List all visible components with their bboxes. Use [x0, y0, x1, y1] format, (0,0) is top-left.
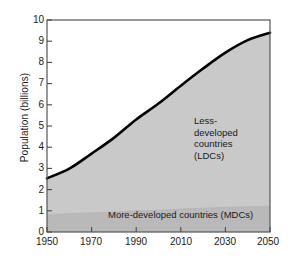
- ldc-annotation-line-4: (LDCs): [194, 150, 264, 162]
- mdc-annotation: More-developed countries (MDCs): [108, 209, 268, 221]
- mdc-annotation-line-1: More-developed countries (MDCs): [108, 209, 268, 221]
- population-chart-figure: Population (billions) 10 9 8 7 6 5 4 3 2…: [0, 0, 291, 262]
- ldc-annotation-line-3: countries: [194, 138, 264, 150]
- ldc-annotation: Less- developed countries (LDCs): [194, 115, 264, 161]
- ldc-annotation-line-2: developed: [194, 127, 264, 139]
- ldc-annotation-line-1: Less-: [194, 115, 264, 127]
